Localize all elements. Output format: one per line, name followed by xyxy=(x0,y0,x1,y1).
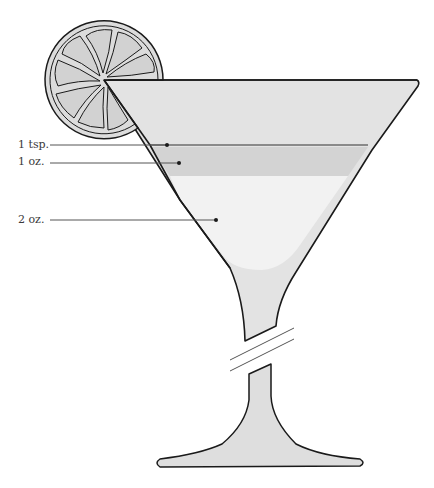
label-2oz: 2 oz. xyxy=(18,214,44,226)
stem-break-lines xyxy=(230,328,294,371)
label-1tsp: 1 tsp. xyxy=(18,139,49,151)
label-1oz: 1 oz. xyxy=(18,156,44,168)
martini-glass-illustration xyxy=(0,0,434,488)
glass-bowl xyxy=(104,80,419,341)
dot-1oz xyxy=(177,161,181,165)
glass-stem-base xyxy=(157,364,363,467)
dot-2oz xyxy=(214,218,218,222)
dot-1tsp xyxy=(165,143,169,147)
martini-diagram: 1 tsp. 1 oz. 2 oz. xyxy=(0,0,434,488)
layer-1oz xyxy=(150,147,368,176)
